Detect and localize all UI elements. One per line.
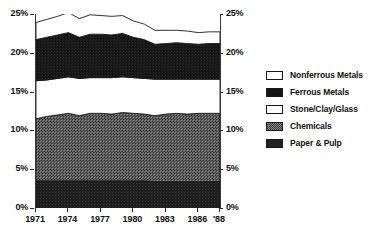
- legend-item: Nonferrous Metals: [266, 68, 378, 83]
- y-axis-right-tick-label: 15%: [226, 87, 252, 96]
- y-axis-right-tick-label: 25%: [226, 9, 252, 18]
- y-axis-left-tick-label: 25%: [4, 9, 28, 18]
- y-axis-tick-mark: [30, 208, 34, 209]
- x-axis-tick-mark: [35, 208, 36, 212]
- legend-label: Chemicals: [290, 122, 332, 131]
- chart-legend: Nonferrous MetalsFerrous MetalsStone/Cla…: [266, 68, 378, 153]
- plot-area: [35, 14, 221, 208]
- legend-swatch-icon: [266, 105, 283, 114]
- y-axis-left-tick-label: 10%: [4, 125, 28, 134]
- x-axis-tick-label: '88: [199, 214, 239, 224]
- y-axis-right-tick-label: 20%: [226, 48, 252, 57]
- legend-label: Ferrous Metals: [290, 88, 349, 97]
- y-axis-right-tick-label: 10%: [226, 125, 252, 134]
- area-series: [36, 181, 220, 208]
- y-axis-right-tick-label: 5%: [226, 164, 252, 173]
- legend-label: Nonferrous Metals: [290, 71, 363, 80]
- x-axis-tick-mark: [165, 208, 166, 212]
- legend-swatch-icon: [266, 71, 283, 80]
- legend-swatch-icon: [266, 88, 283, 97]
- y-axis-tick-mark: [30, 92, 34, 93]
- x-axis-tick-mark: [132, 208, 133, 212]
- legend-item: Ferrous Metals: [266, 85, 378, 100]
- area-series: [36, 77, 220, 119]
- stacked-area-chart: 25%20%15%10%5%0% 25%20%15%10%5%0% 197119…: [0, 0, 252, 241]
- legend-item: Paper & Pulp: [266, 136, 378, 151]
- y-axis-tick-mark: [30, 169, 34, 170]
- legend-item: Chemicals: [266, 119, 378, 134]
- x-axis-tick-mark: [67, 208, 68, 212]
- y-axis-right-tick-label: 0%: [226, 203, 252, 212]
- legend-label: Paper & Pulp: [290, 139, 342, 148]
- y-axis-left-tick-label: 20%: [4, 48, 28, 57]
- legend-swatch-icon: [266, 139, 283, 148]
- legend-swatch-icon: [266, 122, 283, 131]
- y-axis-left-tick-label: 15%: [4, 87, 28, 96]
- x-axis-tick-mark: [100, 208, 101, 212]
- plot-inner: [36, 14, 220, 208]
- x-axis-tick-mark: [197, 208, 198, 212]
- y-axis-tick-mark: [30, 53, 34, 54]
- area-series: [36, 113, 220, 182]
- y-axis-tick-mark: [30, 14, 34, 15]
- legend-item: Stone/Clay/Glass: [266, 102, 378, 117]
- y-axis-left-tick-label: 0%: [4, 203, 28, 212]
- y-axis-left-tick-label: 5%: [4, 164, 28, 173]
- y-axis-tick-mark: [30, 130, 34, 131]
- chart-screenshot: 25%20%15%10%5%0% 25%20%15%10%5%0% 197119…: [0, 0, 378, 241]
- x-axis-tick-mark: [219, 208, 220, 212]
- legend-label: Stone/Clay/Glass: [290, 105, 358, 114]
